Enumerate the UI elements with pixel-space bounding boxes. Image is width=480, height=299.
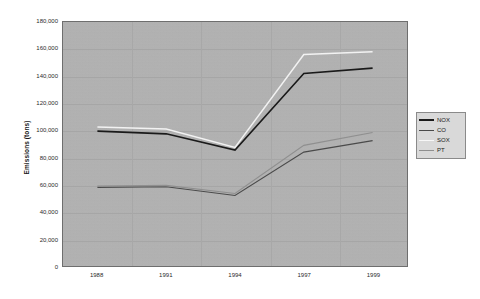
emissions-line-chart: Emissions (tons) 020,00040,00060,00080,0… [0, 0, 480, 299]
chart-legend: NOXCOSOXPT [416, 112, 466, 159]
y-tick-label: 20,000 [16, 237, 58, 243]
legend-swatch-co [419, 130, 434, 131]
series-line-co [97, 141, 372, 196]
legend-item-co[interactable]: CO [419, 125, 463, 135]
series-line-nox [97, 68, 372, 150]
y-tick-label: 40,000 [16, 209, 58, 215]
series-lines [63, 22, 407, 266]
legend-item-pt[interactable]: PT [419, 145, 463, 155]
x-tick-label: 1988 [90, 272, 103, 278]
legend-label: NOX [437, 117, 450, 123]
y-tick-label: 60,000 [16, 182, 58, 188]
y-axis-tick-labels: 020,00040,00060,00080,000100,000120,0001… [14, 0, 58, 299]
plot-area [62, 21, 408, 267]
y-tick-label: 180,000 [16, 18, 58, 24]
y-tick-label: 100,000 [16, 127, 58, 133]
x-axis-tick-labels: 19881991199419971999 [62, 272, 408, 284]
y-tick-label: 80,000 [16, 155, 58, 161]
x-tick-label: 1999 [367, 272, 380, 278]
series-line-pt [97, 132, 372, 193]
x-tick-label: 1997 [298, 272, 311, 278]
x-tick-label: 1994 [228, 272, 241, 278]
x-tick-label: 1991 [159, 272, 172, 278]
legend-item-nox[interactable]: NOX [419, 115, 463, 125]
legend-label: CO [437, 127, 446, 133]
legend-swatch-pt [419, 150, 434, 151]
y-tick-label: 160,000 [16, 45, 58, 51]
legend-item-sox[interactable]: SOX [419, 135, 463, 145]
y-tick-label: 140,000 [16, 73, 58, 79]
y-tick-label: 0 [16, 264, 58, 270]
legend-label: SOX [437, 137, 450, 143]
legend-label: PT [437, 147, 445, 153]
y-tick-label: 120,000 [16, 100, 58, 106]
legend-swatch-sox [419, 140, 434, 141]
legend-swatch-nox [419, 119, 434, 121]
